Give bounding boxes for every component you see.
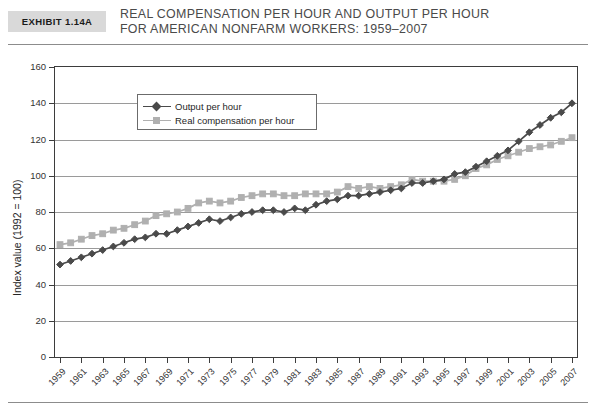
data-point-marker	[334, 189, 340, 195]
data-point-marker	[313, 201, 320, 208]
x-axis-tick	[167, 358, 168, 363]
legend-swatch-diamond-icon	[143, 100, 171, 112]
x-axis-tick	[444, 358, 445, 363]
data-point-marker	[260, 191, 266, 197]
x-axis-tick	[337, 358, 338, 363]
y-axis-tick-label: 40	[16, 279, 46, 290]
legend-label-compensation: Real compensation per hour	[175, 115, 294, 126]
data-point-marker	[548, 142, 554, 148]
data-point-marker	[78, 236, 84, 242]
data-point-marker	[249, 209, 256, 216]
data-point-marker	[526, 146, 532, 152]
y-axis-tick-label: 60	[16, 242, 46, 253]
data-point-marker	[89, 233, 95, 239]
x-axis-tick	[81, 358, 82, 363]
data-point-marker	[153, 213, 159, 219]
x-axis-tick	[252, 358, 253, 363]
data-point-marker	[259, 207, 266, 214]
data-point-marker	[324, 191, 330, 197]
exhibit-number-label: Exhibit 1.14A	[22, 16, 93, 27]
legend-swatch-square-icon	[143, 114, 171, 126]
data-point-marker	[206, 198, 212, 204]
page-title: Real Compensation per Hour and Output pe…	[120, 7, 580, 37]
y-axis-tick-label: 20	[16, 315, 46, 326]
exhibit-header: Exhibit 1.14A Real Compensation per Hour…	[0, 0, 596, 46]
y-axis-tick-label: 120	[16, 134, 46, 145]
x-axis-tick	[231, 358, 232, 363]
data-point-marker	[67, 258, 74, 265]
data-point-marker	[345, 184, 351, 190]
data-point-marker	[153, 230, 160, 237]
y-axis-tick-label: 140	[16, 97, 46, 108]
x-axis-tick	[572, 358, 573, 363]
data-point-marker	[313, 191, 319, 197]
data-point-marker	[227, 214, 234, 221]
x-axis-tick	[60, 358, 61, 363]
data-point-marker	[238, 195, 244, 201]
data-point-marker	[195, 219, 202, 226]
x-axis-tick	[188, 358, 189, 363]
x-axis-tick	[359, 358, 360, 363]
data-point-marker	[110, 243, 117, 250]
y-axis-label-holder: Index value (1992 = 100)	[0, 66, 14, 358]
exhibit-number-box: Exhibit 1.14A	[8, 11, 106, 32]
data-point-marker	[516, 149, 522, 155]
x-axis-tick	[124, 358, 125, 363]
x-axis-tick	[145, 358, 146, 363]
data-point-marker	[164, 211, 170, 217]
x-axis-tick	[487, 358, 488, 363]
data-point-marker	[302, 207, 309, 214]
legend-item-output: Output per hour	[143, 99, 311, 113]
data-point-marker	[355, 192, 362, 199]
y-axis-tick-label: 100	[16, 170, 46, 181]
x-axis-tick	[551, 358, 552, 363]
data-point-marker	[281, 209, 288, 216]
x-axis-tick	[316, 358, 317, 363]
x-axis-tick	[465, 358, 466, 363]
data-point-marker	[142, 234, 149, 241]
x-axis-tick	[295, 358, 296, 363]
data-point-marker	[78, 254, 85, 261]
data-point-marker	[99, 247, 106, 254]
data-point-marker	[249, 193, 255, 199]
legend-item-compensation: Real compensation per hour	[143, 113, 311, 127]
data-point-marker	[558, 138, 564, 144]
x-axis-tick	[103, 358, 104, 363]
data-point-marker	[537, 144, 543, 150]
data-point-marker	[142, 218, 148, 224]
chart-legend: Output per hour Real compensation per ho…	[137, 94, 317, 130]
page-title-line-1: Real Compensation per Hour and Output pe…	[120, 7, 580, 22]
page-title-line-2: for American Nonfarm Workers: 1959–2007	[120, 22, 580, 37]
data-point-marker	[217, 218, 224, 225]
y-axis-tick-label: 160	[16, 61, 46, 72]
data-point-marker	[217, 200, 223, 206]
data-point-marker	[345, 192, 352, 199]
data-point-marker	[185, 223, 192, 230]
data-point-marker	[366, 190, 373, 197]
data-point-marker	[323, 198, 330, 205]
data-point-marker	[110, 227, 116, 233]
data-point-marker	[196, 200, 202, 206]
data-point-marker	[174, 227, 181, 234]
y-axis-tick-label: 0	[16, 351, 46, 362]
data-point-marker	[270, 191, 276, 197]
chart-container: Index value (1992 = 100) 020406080100120…	[0, 48, 596, 400]
data-point-marker	[185, 205, 191, 211]
data-point-marker	[89, 250, 96, 257]
x-axis-tick	[273, 358, 274, 363]
x-axis-tick	[209, 358, 210, 363]
x-axis-tick	[401, 358, 402, 363]
data-point-marker	[281, 193, 287, 199]
y-axis-tick-label: 80	[16, 206, 46, 217]
data-point-marker	[121, 239, 128, 246]
data-point-marker	[174, 209, 180, 215]
data-point-marker	[57, 242, 63, 248]
data-point-marker	[228, 198, 234, 204]
data-point-marker	[291, 205, 298, 212]
data-point-marker	[57, 261, 64, 268]
footer-divider	[8, 402, 588, 403]
data-point-marker	[238, 210, 245, 217]
data-point-marker	[121, 225, 127, 231]
header-divider	[8, 44, 588, 45]
data-point-marker	[206, 216, 213, 223]
